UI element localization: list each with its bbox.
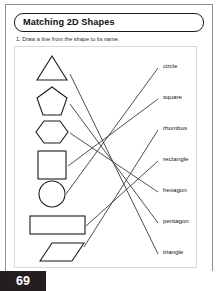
shape-name-label-circle: circle — [163, 62, 177, 69]
shape-name-label-hexagon: hexagon — [163, 186, 187, 193]
shape-name-label-square: square — [163, 93, 182, 100]
title-box: Matching 2D Shapes — [14, 13, 204, 32]
shape-name-label-rectangle: rectangle — [163, 155, 188, 162]
shape-name-label-rhombus: rhombus — [163, 124, 187, 131]
bottom-strip — [46, 271, 221, 291]
worksheet-page: Matching 2D Shapes 1. Draw a line from t… — [0, 0, 221, 291]
page-title: Matching 2D Shapes — [23, 17, 115, 27]
shape-name-label-triangle: triangle — [163, 248, 183, 255]
shape-name-label-pentagon: pentagon — [163, 217, 189, 224]
instruction-text: 1. Draw a line from the shape to its nam… — [16, 36, 120, 42]
page-number: 69 — [0, 271, 46, 291]
page-number-box: 69 — [0, 271, 46, 291]
